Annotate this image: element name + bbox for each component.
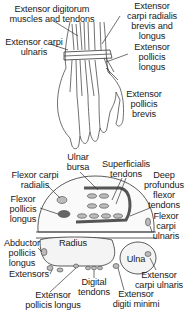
label-extensor-digitorum: Extensor digitorum muscles and tendons [6, 4, 98, 24]
label-deep-profundus: Deep profundus flexor tendons [142, 170, 185, 210]
label-ulna: Ulna [124, 254, 148, 264]
label-extensor-pollicis-longus-2: Extensor pollicis longus [20, 290, 86, 310]
hand-outline [57, 22, 123, 149]
label-extensor-digiti-minimi: Extensor digiti minimi [108, 289, 164, 309]
label-flexor-carpi-radialis: Flexor carpi radialis [6, 170, 64, 190]
label-extensor-carpi-radialis: Extensor carpi radialis brevis and longu… [120, 1, 184, 41]
label-abductor-pollicis-longus: Abductor pollicis longus [0, 238, 44, 268]
label-extensor-carpi-ulnaris-2: Extensor carpi ulnaris [132, 270, 185, 290]
label-flexor-pollicis-longus: Flexor pollicis longus [4, 194, 42, 224]
label-extensor-pollicis-longus: Extensor pollicis longus [126, 42, 178, 72]
label-extensors: Extensors [4, 269, 54, 279]
label-flexor-carpi-ulnaris: Flexor carpi ulnaris [146, 211, 185, 241]
label-extensor-carpi-ulnaris: Extensor carpi ulnaris [2, 37, 66, 57]
label-extensor-pollicis-brevis: Extensor pollicis brevis [118, 89, 170, 119]
label-ulnar-bursa: Ulnar bursa [60, 152, 96, 172]
label-radius: Radius [55, 238, 91, 248]
